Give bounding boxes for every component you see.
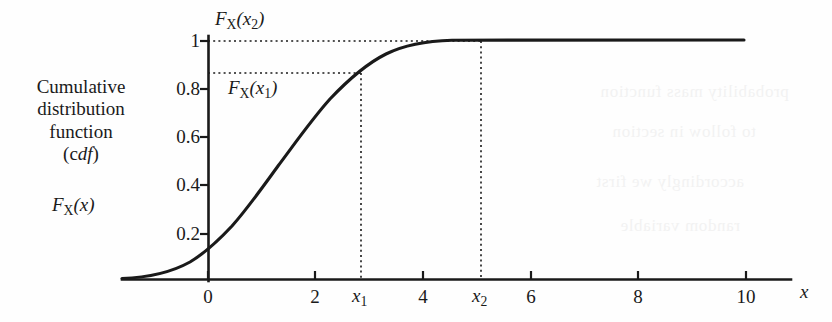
side-label-line-2: distribution xyxy=(6,98,156,120)
annotation-fx1-argend: ) xyxy=(271,77,277,98)
side-label-line-1: Cumulative xyxy=(6,76,156,98)
annotation-fx2-argend: ) xyxy=(258,8,264,29)
function-symbol-sub: X xyxy=(64,203,74,218)
cdf-figure: probability mass function to follow in s… xyxy=(0,0,832,322)
function-symbol-arg: (x) xyxy=(73,194,94,215)
x-tick-label-10: 10 xyxy=(727,286,765,308)
y-tick-label-0_8: 0.8 xyxy=(158,78,200,100)
x-tick-label-2: 2 xyxy=(300,286,330,308)
annotation-fx1: FX(x1) xyxy=(228,77,277,102)
annotation-fx2-sub: X xyxy=(227,17,237,32)
x-axis-name: x xyxy=(800,281,808,303)
annotation-fx2-arg: (x xyxy=(236,8,251,29)
x-tick-label-x2: x2 xyxy=(472,285,487,310)
side-label-line-4: (cdf) xyxy=(6,143,156,165)
annotation-fx2-base: F xyxy=(215,8,227,29)
cdf-side-label: Cumulative distribution function (cdf) xyxy=(6,76,156,166)
annotation-fx1-sub: X xyxy=(240,86,250,101)
y-tick-label-0_2: 0.2 xyxy=(158,223,200,245)
annotation-fx2: FX(x2) xyxy=(215,8,264,33)
annotation-fx1-arg: (x xyxy=(249,77,264,98)
x-tick-label-0: 0 xyxy=(193,286,223,308)
x-tick-label-6: 6 xyxy=(516,286,546,308)
annotation-fx1-base: F xyxy=(228,77,240,98)
x-tick-label-x1: x1 xyxy=(352,285,367,310)
function-symbol-label: FX(x) xyxy=(52,194,95,219)
y-tick-label-0_6: 0.6 xyxy=(158,126,200,148)
cdf-curve xyxy=(122,40,744,279)
y-tick-label-0_4: 0.4 xyxy=(158,174,200,196)
x-tick-label-8: 8 xyxy=(623,286,653,308)
function-symbol-base: F xyxy=(52,194,64,215)
side-label-line-3: function xyxy=(6,121,156,143)
y-tick-label-1: 1 xyxy=(176,30,200,52)
x-tick-label-4: 4 xyxy=(408,286,438,308)
